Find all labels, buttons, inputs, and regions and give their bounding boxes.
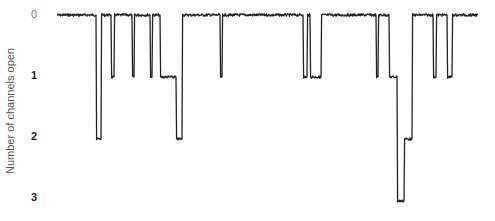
channel-trace (0, 0, 495, 221)
current-trace-line (57, 14, 478, 202)
